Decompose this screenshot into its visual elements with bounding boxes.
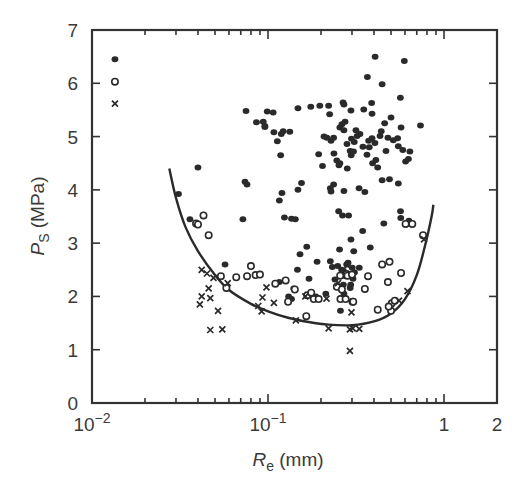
filled-circle-marker bbox=[336, 160, 343, 166]
y-axis-title: PS (MPa) bbox=[27, 176, 52, 255]
filled-circle-marker bbox=[366, 144, 373, 150]
open-circle-marker bbox=[248, 263, 254, 269]
cross-marker bbox=[348, 309, 354, 315]
filled-circle-marker bbox=[356, 185, 363, 191]
filled-circle-marker bbox=[314, 259, 321, 265]
filled-circle-marker bbox=[294, 267, 301, 273]
filled-circle-marker bbox=[277, 152, 284, 158]
open-circle-marker bbox=[379, 261, 385, 267]
cross-marker bbox=[199, 293, 205, 299]
filled-circle-marker bbox=[397, 215, 404, 221]
open-circle-marker bbox=[349, 271, 355, 277]
filled-circle-marker bbox=[175, 191, 182, 197]
x-tick-label: 10−1 bbox=[249, 410, 286, 435]
filled-circle-marker bbox=[380, 220, 387, 226]
filled-circle-marker bbox=[303, 244, 310, 250]
open-circle-marker bbox=[233, 274, 239, 280]
filled-circle-marker bbox=[187, 216, 194, 222]
filled-circle-marker bbox=[325, 103, 332, 109]
filled-circle-marker bbox=[379, 81, 386, 87]
open-circle-marker bbox=[398, 270, 404, 276]
data-points bbox=[175, 54, 427, 354]
y-tick-label: 1 bbox=[67, 340, 78, 361]
filled-circle-marker bbox=[395, 180, 402, 186]
filled-circle-marker bbox=[340, 99, 347, 105]
filled-circle-marker bbox=[344, 166, 351, 172]
open-circle-marker bbox=[308, 289, 314, 295]
filled-circle-marker bbox=[261, 123, 268, 129]
filled-circle-marker bbox=[341, 188, 348, 194]
open-circle-marker bbox=[292, 286, 298, 292]
filled-circle-marker bbox=[195, 164, 202, 170]
open-circle-marker bbox=[375, 307, 381, 313]
filled-circle-marker bbox=[280, 128, 287, 134]
y-tick-label: 7 bbox=[67, 20, 78, 41]
filled-circle-marker bbox=[330, 135, 337, 141]
y-tick-label: 4 bbox=[67, 180, 78, 201]
filled-circle-marker bbox=[407, 148, 414, 154]
filled-circle-marker bbox=[364, 152, 371, 158]
filled-circle-marker bbox=[348, 107, 355, 113]
filled-circle-marker bbox=[327, 258, 334, 264]
y-tick-label: 2 bbox=[67, 286, 78, 307]
x-tick-label: 10−2 bbox=[73, 410, 110, 435]
filled-circle-marker bbox=[222, 261, 229, 267]
cross-marker bbox=[207, 295, 213, 301]
open-circle-marker bbox=[200, 212, 206, 218]
cross-marker bbox=[199, 267, 205, 273]
filled-circle-marker bbox=[329, 264, 336, 270]
filled-circle-marker bbox=[372, 140, 379, 146]
filled-circle-marker bbox=[274, 138, 281, 144]
y-tick-label: 3 bbox=[67, 233, 78, 254]
x-axis-title: Re (mm) bbox=[252, 449, 323, 474]
filled-circle-marker bbox=[244, 182, 251, 188]
filled-circle-marker bbox=[341, 127, 348, 133]
open-circle-marker bbox=[257, 271, 263, 277]
cross-marker bbox=[347, 348, 353, 354]
filled-circle-marker bbox=[350, 248, 357, 254]
open-circle-marker bbox=[112, 78, 118, 84]
cross-marker bbox=[204, 271, 210, 277]
filled-circle-marker bbox=[357, 131, 364, 137]
filled-circle-marker bbox=[383, 148, 390, 154]
open-circle-marker bbox=[339, 286, 345, 292]
filled-circle-marker bbox=[401, 58, 408, 64]
filled-circle-marker bbox=[337, 308, 344, 314]
open-circle-marker bbox=[205, 232, 211, 238]
filled-circle-marker bbox=[319, 163, 326, 169]
cross-marker bbox=[210, 275, 216, 281]
filled-circle-marker bbox=[369, 160, 376, 166]
open-circle-marker bbox=[409, 221, 415, 227]
filled-circle-marker bbox=[350, 148, 357, 154]
filled-circle-marker bbox=[270, 110, 277, 116]
filled-circle-marker bbox=[297, 251, 304, 257]
y-tick-label: 6 bbox=[67, 73, 78, 94]
cross-marker bbox=[219, 326, 225, 332]
cross-marker bbox=[326, 325, 332, 331]
filled-circle-marker bbox=[292, 216, 299, 222]
y-tick-label: 0 bbox=[67, 393, 78, 414]
filled-circle-marker bbox=[345, 212, 352, 218]
filled-circle-marker bbox=[298, 180, 305, 186]
filled-circle-marker bbox=[330, 182, 337, 188]
filled-circle-marker bbox=[394, 135, 401, 141]
open-circle-marker bbox=[272, 280, 278, 286]
open-circle-marker bbox=[195, 221, 201, 227]
filled-circle-marker bbox=[379, 177, 386, 183]
cross-marker bbox=[263, 284, 269, 290]
cross-marker bbox=[207, 327, 213, 333]
filled-circle-marker bbox=[286, 129, 293, 135]
filled-circle-marker bbox=[306, 276, 313, 282]
filled-circle-marker bbox=[388, 114, 395, 120]
cross-marker bbox=[271, 300, 277, 306]
filled-circle-marker bbox=[336, 247, 343, 253]
filled-circle-marker bbox=[243, 108, 250, 114]
filled-circle-marker bbox=[381, 120, 388, 126]
filled-circle-marker bbox=[359, 144, 366, 150]
open-circle-marker bbox=[362, 286, 368, 292]
filled-circle-marker bbox=[315, 151, 322, 157]
filled-circle-marker bbox=[368, 100, 375, 106]
filled-circle-marker bbox=[239, 216, 246, 222]
y-axis-tick-labels: 01234567 bbox=[67, 20, 78, 414]
filled-circle-marker bbox=[253, 119, 260, 125]
